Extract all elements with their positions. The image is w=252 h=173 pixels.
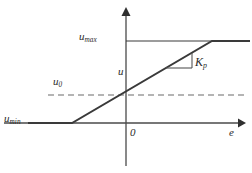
saturation-characteristic-figure: umax umin u0 u Kp 0 e	[0, 0, 252, 173]
y-axis-arrow-icon	[122, 7, 131, 16]
x-axis-arrow-icon	[238, 119, 246, 128]
u-zero-label-subscript: 0	[59, 81, 63, 89]
u-zero-label-base: u	[53, 75, 59, 87]
u-zero-label: u0	[53, 76, 62, 87]
e-axis-label-base: e	[229, 126, 234, 138]
kp-slope-label-base: K	[195, 55, 203, 69]
u-min-label-subscript: min	[10, 118, 21, 126]
u-min-label: umin	[4, 113, 21, 124]
u-max-label: umax	[79, 31, 97, 42]
e-axis-label: e	[229, 127, 234, 138]
kp-slope-label-subscript: p	[203, 61, 207, 70]
u-curve-label-base: u	[118, 65, 124, 77]
origin-label-base: 0	[130, 126, 136, 138]
u-curve-label: u	[118, 66, 124, 77]
plot-canvas	[0, 0, 252, 173]
u-max-label-base: u	[79, 30, 85, 42]
kp-slope-label: Kp	[195, 56, 207, 68]
u-min-label-base: u	[4, 112, 10, 124]
u-max-label-subscript: max	[85, 36, 97, 44]
origin-label: 0	[130, 127, 136, 138]
